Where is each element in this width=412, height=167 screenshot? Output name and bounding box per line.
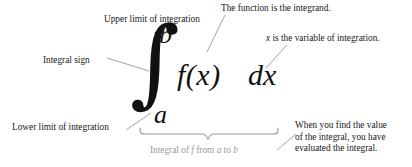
callout-variable: x is the variable of integration. <box>266 33 380 45</box>
upper-limit-value: b <box>159 22 172 48</box>
integrand-expression: f(x) <box>177 58 221 92</box>
callout-result-line-2: of the integral, you have <box>295 132 407 144</box>
integral-sign-glyph: ∫ <box>130 14 180 110</box>
callout-integral-sign: Integral sign <box>43 55 90 67</box>
callout-variable-text: is the variable of integration. <box>270 33 379 43</box>
brace-caption-part-2: from <box>194 145 217 155</box>
differential-term: dx <box>248 58 276 92</box>
brace-caption-part-1: Integral of <box>150 145 191 155</box>
callout-upper-limit: Upper limit of integration <box>104 14 200 26</box>
lower-limit-value: a <box>154 102 167 128</box>
callout-result-line-1: When you find the value <box>295 120 407 132</box>
brace-caption-var-b: b <box>233 145 238 155</box>
callout-result: When you find the value of the integral,… <box>295 120 407 155</box>
brace-caption: Integral of f from a to b <box>150 145 238 155</box>
callout-result-line-3: evaluated the integral. <box>295 143 407 155</box>
brace-caption-part-3: to <box>221 145 233 155</box>
leader-line-result <box>277 134 296 150</box>
callout-function: The function is the integrand. <box>221 3 331 15</box>
integral-anatomy-diagram: ∫ b a f(x) dx Upper limit of integration… <box>0 0 412 167</box>
callout-lower-limit: Lower limit of integration <box>12 122 109 134</box>
